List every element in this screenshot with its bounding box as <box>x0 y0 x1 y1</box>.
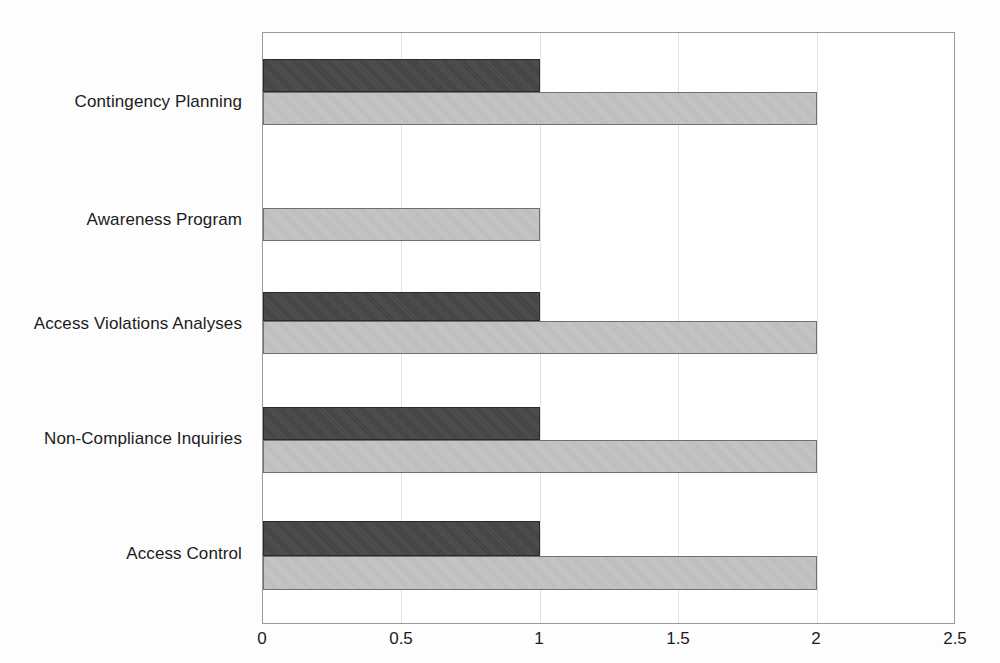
xtick-label-1.5: 1.5 <box>666 630 690 647</box>
bar-access-violations-analyses-series1 <box>263 321 817 354</box>
bar-non-compliance-inquiries-series2 <box>263 407 540 440</box>
category-label-access-control: Access Control <box>126 545 242 562</box>
bar-access-control-series2 <box>263 521 540 556</box>
xtick-label-0.5: 0.5 <box>389 630 413 647</box>
category-label-contingency-planning: Contingency Planning <box>75 93 242 110</box>
xtick-label-1: 1 <box>534 630 543 647</box>
xtick-label-2.5: 2.5 <box>943 630 967 647</box>
bar-contingency-planning-series1 <box>263 92 817 125</box>
category-label-awareness-program: Awareness Program <box>87 211 242 228</box>
bar-access-control-series1 <box>263 556 817 590</box>
plot-area <box>262 32 955 624</box>
bar-chart: Contingency Planning Awareness Program A… <box>0 0 1000 663</box>
bar-access-violations-analyses-series2 <box>263 292 540 321</box>
gridline-2 <box>817 33 818 623</box>
xtick-label-2: 2 <box>811 630 820 647</box>
xtick-label-0: 0 <box>257 630 266 647</box>
category-label-access-violations-analyses: Access Violations Analyses <box>34 315 242 332</box>
bar-non-compliance-inquiries-series1 <box>263 440 817 473</box>
bar-awareness-program-series1 <box>263 208 540 241</box>
category-label-non-compliance-inquiries: Non-Compliance Inquiries <box>44 430 242 447</box>
bar-contingency-planning-series2 <box>263 59 540 92</box>
